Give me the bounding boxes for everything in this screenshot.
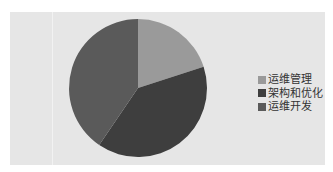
legend-label: 运维管理: [268, 73, 312, 87]
legend-label: 架构和优化: [268, 87, 323, 101]
legend-label: 运维开发: [268, 100, 312, 114]
legend-swatch: [258, 89, 266, 97]
legend: 运维管理 架构和优化 运维开发: [258, 73, 323, 114]
legend-item-ops-management: 运维管理: [258, 73, 323, 87]
legend-swatch: [258, 103, 266, 111]
legend-swatch: [258, 76, 266, 84]
legend-item-architecture: 架构和优化: [258, 87, 323, 101]
legend-item-ops-dev: 运维开发: [258, 100, 323, 114]
